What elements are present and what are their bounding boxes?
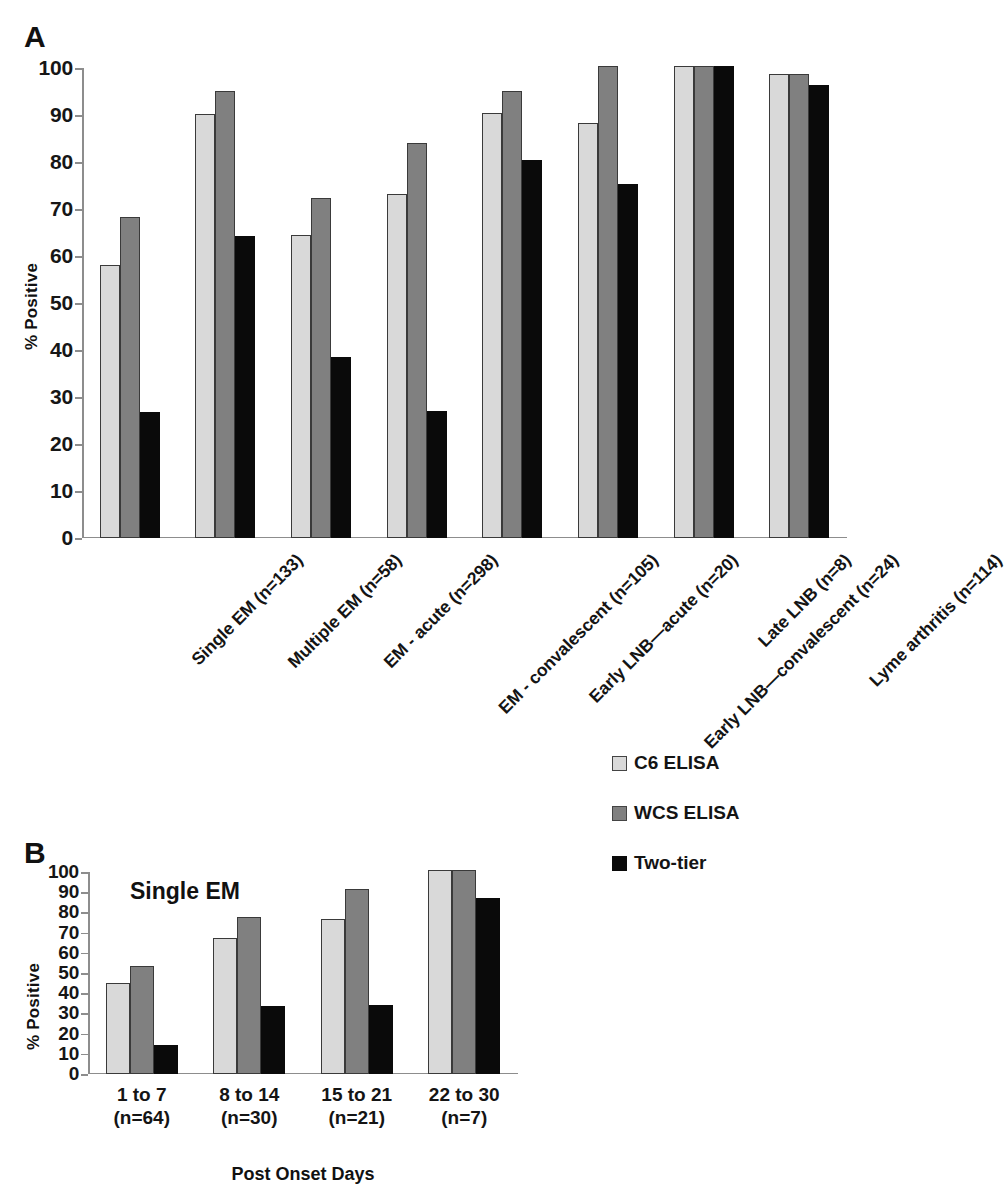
y-tick	[81, 933, 88, 935]
bar	[140, 412, 160, 538]
y-tick-label: 60	[58, 942, 79, 964]
legend-swatch-icon	[612, 806, 627, 821]
panel-a-category-label: Early LNB—convalescent (n=24)	[700, 550, 903, 753]
y-tick-label: 50	[50, 291, 73, 315]
bar	[130, 966, 154, 1074]
bar	[213, 938, 237, 1074]
y-tick-label: 30	[58, 1002, 79, 1024]
bar	[427, 411, 447, 538]
legend-item-c6-elisa: C6 ELISA	[612, 752, 740, 774]
y-tick	[75, 115, 82, 117]
y-tick	[81, 1013, 88, 1015]
y-tick	[81, 1034, 88, 1036]
y-tick	[75, 350, 82, 352]
y-tick-label: 40	[58, 982, 79, 1004]
bar	[195, 114, 215, 538]
bar	[476, 898, 500, 1074]
panel-b-category-label: 22 to 30(n=7)	[404, 1084, 524, 1130]
bar	[215, 91, 235, 538]
panel-b-chart: Single EM 0102030405060708090100	[88, 872, 518, 1074]
bar	[769, 74, 789, 538]
bar	[369, 1005, 393, 1074]
bar	[714, 66, 734, 538]
bar	[235, 236, 255, 538]
bar	[407, 143, 427, 538]
panel-a-category-label: Early LNB—acute (n=20)	[585, 550, 742, 707]
panel-b-plot-area: 0102030405060708090100	[88, 872, 518, 1074]
legend-item-two-tier: Two-tier	[612, 852, 740, 874]
bar	[345, 889, 369, 1074]
y-tick	[75, 538, 82, 540]
y-tick-label: 90	[58, 881, 79, 903]
y-tick	[75, 444, 82, 446]
y-tick	[75, 162, 82, 164]
legend-swatch-icon	[612, 756, 627, 771]
bar-group	[178, 68, 274, 538]
y-tick	[81, 872, 88, 874]
bar	[428, 870, 452, 1074]
bar	[331, 357, 351, 538]
legend-item-wcs-elisa: WCS ELISA	[612, 802, 740, 824]
y-tick	[81, 973, 88, 975]
panel-b-category-range: 22 to 30	[404, 1084, 524, 1107]
y-tick-label: 60	[50, 244, 73, 268]
y-tick-label: 100	[48, 861, 79, 883]
panel-b-category-count: (n=30)	[189, 1107, 309, 1130]
panel-b-category-label: 15 to 21(n=21)	[297, 1084, 417, 1130]
panel-b-category-range: 8 to 14	[189, 1084, 309, 1107]
bar	[387, 194, 407, 539]
bar	[154, 1045, 178, 1074]
y-tick-label: 0	[62, 526, 73, 550]
bar-group	[196, 872, 304, 1074]
legend-label: Two-tier	[634, 852, 706, 874]
y-tick-label: 20	[58, 1023, 79, 1045]
bar	[674, 66, 694, 538]
y-tick	[75, 256, 82, 258]
y-tick-label: 20	[50, 432, 73, 456]
y-tick	[81, 993, 88, 995]
bar	[311, 198, 331, 538]
bar-group	[560, 68, 656, 538]
panel-b-y-axis-label: % Positive	[24, 900, 44, 1050]
legend-label: WCS ELISA	[634, 802, 740, 824]
y-tick-label: 70	[58, 922, 79, 944]
y-tick-label: 70	[50, 197, 73, 221]
y-tick	[81, 1074, 88, 1076]
panel-b-category-label: 1 to 7(n=64)	[82, 1084, 202, 1130]
bar-group	[656, 68, 752, 538]
y-tick-label: 0	[69, 1063, 79, 1085]
panel-a-letter: A	[24, 22, 46, 52]
y-tick	[75, 303, 82, 305]
bar-group	[88, 872, 196, 1074]
bar-group	[751, 68, 847, 538]
y-tick	[81, 892, 88, 894]
panel-a-plot-area: 0102030405060708090100	[82, 68, 847, 538]
bar	[106, 983, 130, 1075]
panel-b-category-label: 8 to 14(n=30)	[189, 1084, 309, 1130]
y-tick-label: 40	[50, 338, 73, 362]
panel-a-category-label: EM - convalescent (n=105)	[494, 550, 662, 718]
bar-group	[303, 872, 411, 1074]
bar	[237, 917, 261, 1074]
y-tick	[75, 397, 82, 399]
panel-b-x-axis-label: Post Onset Days	[88, 1164, 518, 1185]
y-tick-label: 10	[58, 1043, 79, 1065]
y-tick	[81, 953, 88, 955]
panel-a-chart: 0102030405060708090100	[82, 68, 847, 538]
bar	[809, 85, 829, 538]
y-tick-label: 30	[50, 385, 73, 409]
y-tick-label: 100	[39, 56, 73, 80]
bar	[452, 870, 476, 1074]
bar	[321, 919, 345, 1074]
bar	[261, 1006, 285, 1074]
bar-group	[273, 68, 369, 538]
panel-a-y-axis-label: % Positive	[22, 190, 42, 350]
bar	[598, 66, 618, 538]
panel-b-category-range: 1 to 7	[82, 1084, 202, 1107]
y-tick-label: 90	[50, 103, 73, 127]
bar	[482, 113, 502, 538]
y-tick	[75, 491, 82, 493]
bar-group	[411, 872, 519, 1074]
y-tick	[75, 68, 82, 70]
panel-b-category-count: (n=21)	[297, 1107, 417, 1130]
